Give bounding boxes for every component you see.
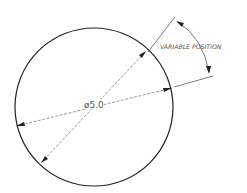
arrow-head xyxy=(206,66,211,74)
arrow-head xyxy=(176,21,184,27)
extension-line-2 xyxy=(174,76,213,87)
diameter-label: ø5.0 xyxy=(84,100,104,110)
arrow-head xyxy=(41,156,48,163)
drawing: ø5.0 VARIABLE POSITION xyxy=(0,0,247,193)
angle-label: VARIABLE POSITION xyxy=(160,43,222,50)
